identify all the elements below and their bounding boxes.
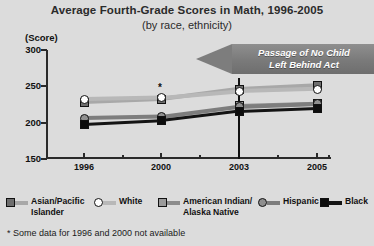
y-tick [41,158,47,160]
legend-marker-icon [6,198,15,207]
x-axis [46,157,331,159]
legend-line-icon [167,201,180,205]
legend-line-icon [15,201,28,205]
y-tick [41,122,47,124]
x-tick [199,155,201,159]
data-point-marker [157,116,166,125]
y-axis-label: (Score) [25,32,58,43]
legend-item[interactable]: White [94,196,142,208]
data-point-marker [80,120,89,129]
legend-label-line2: Alaska Native [183,207,239,217]
series-line-segment [239,87,317,93]
y-tick-label: 150 [16,153,41,164]
legend-label-line1: Black [345,196,368,206]
asterisk-annotation: * [158,83,162,93]
chart-page: Average Fourth-Grade Scores in Math, 199… [0,0,374,246]
legend-label-line1: Asian/Pacific [31,196,85,206]
data-point-marker [157,93,166,102]
y-axis [46,50,48,159]
legend-label: Black [345,196,368,207]
banner-text: Passage of No Child Left Behind Act [240,47,368,71]
y-tick-label: 200 [16,117,41,128]
x-tick [122,155,124,159]
legend-label-line1: Hispanic [283,196,319,206]
legend-swatch-icon [258,197,280,208]
chart-footnote: * Some data for 1996 and 2000 not availa… [7,228,185,238]
data-point-marker [235,107,244,116]
legend-item[interactable]: Black [320,196,368,208]
arrow-left-icon [196,44,232,74]
legend-item[interactable]: Hispanic [258,196,319,208]
y-tick-label: 250 [16,80,41,91]
y-tick-label: 300 [16,44,41,55]
y-tick [41,85,47,87]
legend-line-icon [103,201,116,205]
data-point-marker [80,95,89,104]
data-point-marker [313,85,322,94]
legend-line-icon [329,201,342,205]
legend-marker-icon [158,198,167,207]
x-tick [83,153,85,159]
x-tick-label: 1996 [64,162,104,172]
chart-title: Average Fourth-Grade Scores in Math, 199… [0,4,374,16]
legend-label: American Indian/Alaska Native [183,196,252,217]
x-tick-label: 2005 [297,162,337,172]
legend-item[interactable]: American Indian/Alaska Native [158,196,252,217]
y-tick [41,49,47,51]
data-point-marker [235,87,244,96]
legend-label-line2: Islander [31,207,64,217]
banner-text-line2: Left Behind Act [269,59,339,70]
data-point-marker [313,104,322,113]
x-tick-label: 2003 [219,162,259,172]
legend-marker-icon [320,198,329,207]
x-tick [328,155,330,159]
legend-label: White [119,196,142,207]
legend-swatch-icon [158,197,180,208]
x-tick [316,153,318,159]
legend-label-line1: American Indian/ [183,196,252,206]
chart-subtitle: (by race, ethnicity) [0,19,374,31]
legend-marker-icon [258,198,267,207]
legend-label: Asian/PacificIslander [31,196,85,217]
legend-swatch-icon [6,197,28,208]
legend-label-line1: White [119,196,142,206]
legend-swatch-icon [94,197,116,208]
legend-label: Hispanic [283,196,319,207]
legend-swatch-icon [320,197,342,208]
x-tick [277,155,279,159]
legend-item[interactable]: Asian/PacificIslander [6,196,85,217]
series-line-segment [84,119,161,126]
banner-text-line1: Passage of No Child [258,47,350,58]
nclb-annotation: Passage of No Child Left Behind Act [196,44,374,74]
legend-marker-icon [94,198,103,207]
chart-legend: Asian/PacificIslanderWhiteAmerican India… [6,196,372,222]
x-tick [160,153,162,159]
x-tick-label: 2000 [141,162,181,172]
legend-line-icon [267,201,280,205]
